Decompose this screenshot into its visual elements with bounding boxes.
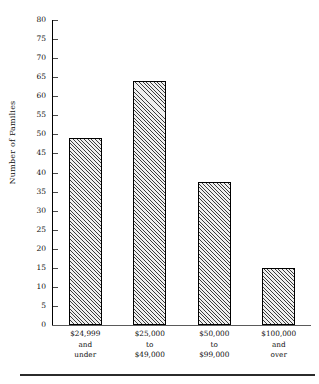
y-tick-label: 75 <box>0 35 46 43</box>
bar <box>133 81 166 325</box>
y-tick-label: 20 <box>0 245 46 253</box>
bar <box>262 268 295 325</box>
x-category-label-line: $25,000 <box>118 329 183 340</box>
y-tick-label: 35 <box>0 188 46 196</box>
bar <box>69 138 102 325</box>
y-tick-label: 40 <box>0 169 46 177</box>
x-category-label-line: and <box>53 340 118 351</box>
x-category-label: $24,999andunder <box>53 329 118 361</box>
x-category-label-line: under <box>53 350 118 361</box>
bar <box>198 182 231 325</box>
x-category-label-line: over <box>247 350 312 361</box>
y-tick-label: 15 <box>0 264 46 272</box>
y-tick-label: 5 <box>0 302 46 310</box>
bar-series <box>53 20 311 325</box>
x-category-label: $100,000andover <box>247 329 312 361</box>
y-tick-label: 0 <box>0 321 46 329</box>
x-category-label-line: $49,000 <box>118 350 183 361</box>
y-tick-label: 25 <box>0 226 46 234</box>
y-tick-label: 50 <box>0 130 46 138</box>
y-tick-label: 80 <box>0 16 46 24</box>
x-category-label: $25,000to$49,000 <box>118 329 183 361</box>
y-tick-label: 65 <box>0 73 46 81</box>
x-category-label-line: $24,999 <box>53 329 118 340</box>
y-tick-label: 10 <box>0 283 46 291</box>
footer-rule <box>20 374 315 376</box>
x-category-label-line: $100,000 <box>247 329 312 340</box>
x-category-label-line: $50,000 <box>182 329 247 340</box>
x-category-label-line: to <box>182 340 247 351</box>
y-tick-label: 60 <box>0 92 46 100</box>
x-category-label-line: to <box>118 340 183 351</box>
chart-figure: Number of Families 051015202530354045505… <box>0 0 319 384</box>
x-category-label-line: $99,000 <box>182 350 247 361</box>
x-category-label-line: and <box>247 340 312 351</box>
x-category-label: $50,000to$99,000 <box>182 329 247 361</box>
y-tick-label: 30 <box>0 207 46 215</box>
y-tick-label: 70 <box>0 54 46 62</box>
y-tick-label: 45 <box>0 149 46 157</box>
x-axis-category-labels: $24,999andunder$25,000to$49,000$50,000to… <box>53 329 311 371</box>
y-tick-label: 55 <box>0 111 46 119</box>
x-axis-line <box>52 325 311 326</box>
